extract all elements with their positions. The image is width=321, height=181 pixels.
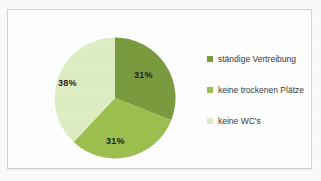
legend-swatch-icon-1 (207, 87, 213, 93)
pie-value-label-staendige-vertreibung: 31% (134, 70, 153, 80)
legend-swatch-icon-2 (207, 118, 213, 124)
legend-swatch-icon-0 (207, 56, 213, 62)
legend-label-2: keine WC's (218, 116, 261, 127)
chart-frame: 31% 31% 38% ständige Vertreibung keine t… (7, 9, 312, 169)
pie-value-label-keine-wcs: 38% (58, 78, 77, 88)
legend-item-keine-trockenen-plaetze: keine trockenen Plätze (207, 85, 304, 96)
pie-chart: 31% 31% 38% (54, 37, 176, 159)
legend-item-staendige-vertreibung: ständige Vertreibung (207, 54, 296, 65)
pie-value-label-keine-trockenen-plaetze: 31% (106, 136, 125, 146)
legend-label-1: keine trockenen Plätze (218, 85, 304, 96)
pie-chart-screenshot: 31% 31% 38% ständige Vertreibung keine t… (0, 0, 321, 181)
legend-item-keine-wcs: keine WC's (207, 116, 261, 127)
legend-label-0: ständige Vertreibung (218, 54, 296, 65)
